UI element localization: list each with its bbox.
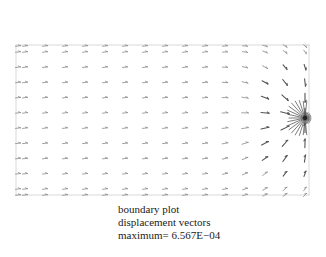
caption-maximum: maximum= 6.567E−04 bbox=[118, 229, 220, 242]
caption-title: boundary plot bbox=[118, 203, 220, 216]
displacement-vector-plot bbox=[0, 0, 326, 200]
vector-field bbox=[16, 45, 307, 197]
concentration-burst bbox=[288, 101, 311, 136]
caption-subtitle: displacement vectors bbox=[118, 216, 220, 229]
plot-caption: boundary plot displacement vectors maxim… bbox=[118, 203, 220, 242]
